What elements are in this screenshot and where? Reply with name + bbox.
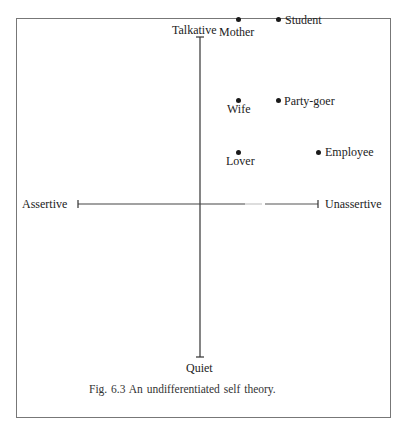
- axis-label-right: Unassertive: [325, 198, 382, 210]
- point-student-label: Student: [285, 14, 322, 26]
- point-party-goer-dot: [276, 98, 281, 103]
- point-wife-label: Wife: [227, 103, 251, 115]
- point-party-goer-label: Party-goer: [284, 95, 335, 107]
- point-lover-label: Lover: [226, 155, 255, 167]
- point-mother-dot: [236, 17, 241, 22]
- point-student-dot: [276, 17, 281, 22]
- axis-label-bottom: Quiet: [186, 362, 213, 374]
- point-employee-dot: [316, 150, 321, 155]
- axis-label-left: Assertive: [22, 198, 67, 210]
- point-employee-label: Employee: [325, 146, 374, 158]
- point-mother-label: Mother: [219, 26, 254, 38]
- axis-label-top: Talkative: [172, 24, 216, 36]
- figure-caption: Fig. 6.3 An undifferentiated self theory…: [89, 383, 276, 395]
